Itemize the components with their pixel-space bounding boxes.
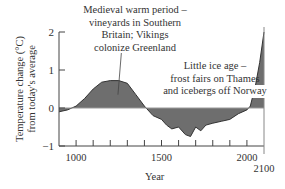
annotation-line: Britain; Vikings — [60, 29, 210, 42]
y-tick-label: 1 — [49, 64, 55, 76]
x-tick-label: 2100 — [254, 163, 275, 174]
x-axis-label: Year — [145, 171, 164, 182]
y-tick-label: −1 — [42, 140, 54, 152]
y-tick-label: 0 — [49, 102, 55, 114]
annotation-line: Little ice age – — [150, 60, 280, 73]
annotation-line: colonize Greenland — [60, 42, 210, 55]
annotation-line: frost fairs on Thames — [150, 73, 280, 86]
medieval-warm-annotation: Medieval warm period – vineyards in Sout… — [60, 4, 210, 54]
x-tick-label: 1500 — [151, 152, 172, 163]
annotation-line: Medieval warm period – — [60, 4, 210, 17]
y-axis-label: Temperature change (°C) from today's ave… — [14, 19, 38, 159]
x-tick-label: 2000 — [236, 152, 257, 163]
y-axis-label-line2: from today's average — [26, 19, 38, 159]
y-axis-label-line1: Temperature change (°C) — [14, 19, 26, 159]
annotation-line: and icebergs off Norway — [150, 85, 280, 98]
y-tick-label: 2 — [49, 26, 55, 38]
x-tick-label: 1000 — [66, 152, 87, 163]
little-ice-age-annotation: Little ice age – frost fairs on Thames a… — [150, 60, 280, 98]
annotation-line: vineyards in Southern — [60, 17, 210, 30]
